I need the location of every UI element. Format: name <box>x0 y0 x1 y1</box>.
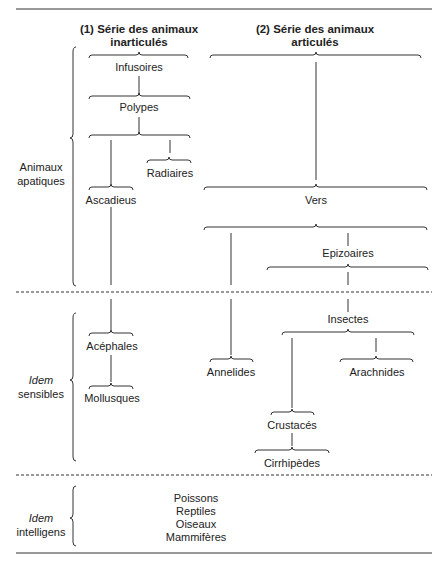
vertebrate-item: Reptiles <box>166 505 227 518</box>
vertebrates-list: Poissons Reptiles Oiseaux Mammifères <box>166 492 227 544</box>
node-acephales: Acéphales <box>86 340 137 353</box>
node-crustaces: Crustacés <box>267 419 317 432</box>
section-label-intelligens: Idem intelligens <box>17 511 66 539</box>
series2-header-line2: articulés <box>291 36 338 49</box>
section-label-line2: apatiques <box>17 174 65 188</box>
vertebrate-item: Oiseaux <box>166 518 227 531</box>
series2-header-line1: (2) Série des animaux <box>256 23 374 36</box>
node-vers: Vers <box>305 194 327 207</box>
node-radiaires: Radiaires <box>147 167 193 180</box>
node-arachnides: Arachnides <box>349 366 404 379</box>
node-mollusques: Mollusques <box>84 392 140 405</box>
node-epizoaires: Epizoaires <box>322 247 373 260</box>
section-label-line1: Animaux <box>17 160 65 174</box>
section-label-apatiques: Animaux apatiques <box>17 160 65 188</box>
node-annelides: Annelides <box>207 366 255 379</box>
node-insectes: Insectes <box>328 313 369 326</box>
diagram-lines <box>0 0 447 567</box>
vertebrate-item: Poissons <box>166 492 227 505</box>
node-infusoires: Infusoires <box>115 61 163 74</box>
node-polypes: Polypes <box>119 101 158 114</box>
vertebrate-item: Mammifères <box>166 531 227 544</box>
node-ascadieus: Ascadieus <box>86 194 137 207</box>
section-label-line1: Idem <box>18 373 64 387</box>
series1-header-line2: inarticulés <box>110 36 168 49</box>
section-label-line1: Idem <box>17 511 66 525</box>
section-label-line2: sensibles <box>18 387 64 401</box>
series1-header-line1: (1) Série des animaux <box>80 23 198 36</box>
node-cirrhipedes: Cirrhipèdes <box>264 457 320 470</box>
section-label-line2: intelligens <box>17 525 66 539</box>
section-label-sensibles: Idem sensibles <box>18 373 64 401</box>
